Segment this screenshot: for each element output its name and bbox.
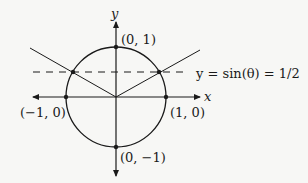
y-axis-label: y xyxy=(110,6,119,21)
label-bottom-point: (0, −1) xyxy=(120,150,166,165)
label-left-point: (−1, 0) xyxy=(20,105,66,120)
point-intersect-left xyxy=(71,70,75,74)
point-bottom xyxy=(114,145,118,149)
label-sin-equation: y = sin(θ) = 1/2 xyxy=(195,66,300,81)
label-top-point: (0, 1) xyxy=(121,32,156,47)
point-top xyxy=(114,45,118,49)
x-axis-label: x xyxy=(204,89,212,104)
unit-circle-diagram: y x (0, 1) (0, −1) (−1, 0) (1, 0) y = si… xyxy=(0,0,308,183)
point-intersect-right xyxy=(157,70,161,74)
point-right xyxy=(164,95,168,99)
label-right-point: (1, 0) xyxy=(170,105,205,120)
point-left xyxy=(64,95,68,99)
